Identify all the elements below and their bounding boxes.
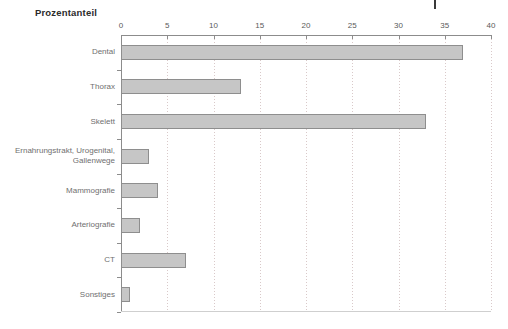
- y-axis-label: Ernahrungstrakt, Urogenital, Gallenwege: [0, 146, 115, 166]
- y-axis-line: [121, 35, 122, 312]
- bar: [121, 45, 463, 60]
- x-tick-label: 5: [165, 21, 169, 30]
- gridline: [352, 39, 353, 312]
- bar: [121, 183, 158, 198]
- y-axis-label: Thorax: [0, 82, 115, 92]
- x-tick-label: 40: [487, 21, 496, 30]
- gridline: [445, 39, 446, 312]
- x-tick-label: 0: [119, 21, 123, 30]
- x-tick-label: 25: [348, 21, 357, 30]
- plot-area: 0510152025303540: [121, 35, 491, 312]
- x-tick-label: 35: [440, 21, 449, 30]
- gridline: [306, 39, 307, 312]
- y-tick-mark: [117, 312, 121, 313]
- y-axis-label: Arteriografie: [0, 220, 115, 230]
- bar: [121, 218, 140, 233]
- bar: [121, 253, 186, 268]
- y-tick-mark: [117, 208, 121, 209]
- gridline: [260, 39, 261, 312]
- y-tick-mark: [117, 104, 121, 105]
- x-tick-label: 30: [394, 21, 403, 30]
- gridline: [399, 39, 400, 312]
- y-axis-label: Dental: [0, 47, 115, 57]
- y-tick-mark: [117, 174, 121, 175]
- y-tick-mark: [117, 277, 121, 278]
- y-tick-mark: [117, 139, 121, 140]
- y-axis-label: Sonstiges: [0, 290, 115, 300]
- chart-title: Prozentanteil: [0, 7, 508, 18]
- bar: [121, 114, 426, 129]
- y-axis-label: Mammografie: [0, 186, 115, 196]
- bar: [121, 287, 130, 302]
- gridline: [491, 39, 492, 312]
- y-axis-label: Skelett: [0, 117, 115, 127]
- y-tick-mark: [117, 243, 121, 244]
- x-tick-label: 10: [209, 21, 218, 30]
- x-tick-label: 15: [255, 21, 264, 30]
- chart-root: Prozentanteil DentalThoraxSkelettErnahru…: [0, 0, 508, 329]
- y-axis-category-labels: DentalThoraxSkelettErnahrungstrakt, Urog…: [0, 35, 115, 312]
- x-tick-label: 20: [302, 21, 311, 30]
- bar: [121, 149, 149, 164]
- bar: [121, 79, 241, 94]
- x-tick-mark: [121, 35, 122, 39]
- chart-title-text: Prozentanteil: [35, 7, 97, 18]
- y-tick-mark: [117, 70, 121, 71]
- y-axis-label: CT: [0, 255, 115, 265]
